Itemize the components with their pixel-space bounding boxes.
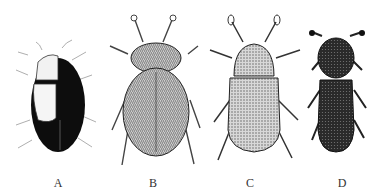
beetle-figure: A B C D [0,0,391,196]
beetle-d [308,30,366,152]
label-d: D [332,176,352,191]
label-c: C [240,176,260,191]
beetle-c [210,15,300,160]
beetle-b [110,15,200,165]
beetle-a-body [31,55,85,152]
beetle-illustrations [0,0,391,196]
label-b: B [143,176,163,191]
label-a: A [48,176,68,191]
